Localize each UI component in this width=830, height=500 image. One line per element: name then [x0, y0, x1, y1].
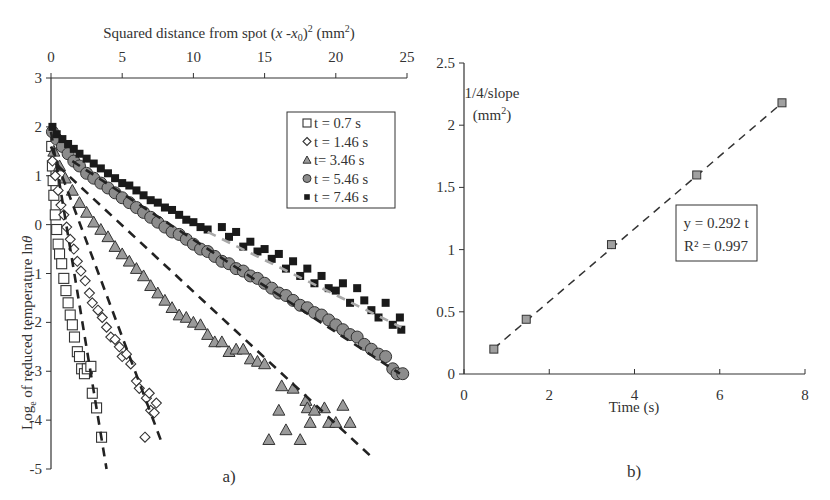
x-tick-label: 25 [400, 49, 415, 65]
panel-a-label: a) [222, 467, 235, 486]
y-tick-label: 2.5 [436, 55, 455, 71]
x-tick-label: 20 [328, 49, 343, 65]
panel-a-ylabel: Loge of reduced temperature lnθ [19, 235, 38, 430]
y-tick-label: 1 [448, 242, 456, 258]
figure-canvas: Squared distance from spot (x -x0)2 (mm2… [0, 0, 830, 500]
svg-text:t = 1.46 s: t = 1.46 s [314, 134, 368, 150]
panel-b-label: b) [627, 462, 641, 481]
panel-b-ylabel-line1: 1/4/slope [465, 85, 520, 101]
panel-a-x-ticks: 0510152025 [47, 49, 414, 78]
y-tick-label: 3 [35, 70, 43, 86]
y-tick-label: 0 [448, 366, 456, 382]
y-tick-label: 1 [35, 168, 43, 184]
svg-text:t = 7.46 s: t = 7.46 s [314, 189, 368, 205]
fit-equation: y = 0.292 t [683, 215, 749, 231]
panel-a-legend: t = 0.7 st = 1.46 st= 3.46 st = 5.46 st … [287, 112, 395, 208]
svg-text:t = 5.46 s: t = 5.46 s [314, 171, 368, 187]
panel-b-xlabel: Time (s) [609, 399, 660, 416]
panel-a-chart: Squared distance from spot (x -x0)2 (mm2… [19, 23, 415, 486]
y-tick-label: 2 [35, 119, 43, 135]
x-tick-label: 6 [716, 387, 724, 403]
y-tick-label: 2 [448, 117, 456, 133]
y-tick-label: 1.5 [436, 179, 455, 195]
panel-a-xlabel: Squared distance from spot (x -x0)2 (mm2… [103, 23, 355, 43]
panel-b-ylabel-line2: (mm2) [473, 105, 511, 124]
svg-text:t= 3.46 s: t= 3.46 s [314, 152, 365, 168]
x-tick-label: 10 [186, 49, 201, 65]
legend-item: t = 7.46 s [304, 189, 368, 205]
x-tick-label: 0 [460, 387, 468, 403]
x-tick-label: 0 [47, 49, 55, 65]
svg-text:t = 0.7 s: t = 0.7 s [314, 115, 361, 131]
y-tick-label: -5 [30, 461, 43, 477]
panel-b-chart: 02468 00.511.522.5 1/4/slope (mm2) y = 0… [436, 55, 809, 481]
x-tick-label: 2 [546, 387, 554, 403]
x-tick-label: 15 [257, 49, 272, 65]
panel-b-y-ticks: 00.511.522.5 [436, 55, 464, 382]
y-tick-label: 0.5 [436, 304, 455, 320]
y-tick-label: 0 [35, 217, 43, 233]
fit-r-squared: R² = 0.997 [684, 238, 749, 254]
x-tick-label: 5 [118, 49, 126, 65]
x-tick-label: 8 [801, 387, 809, 403]
